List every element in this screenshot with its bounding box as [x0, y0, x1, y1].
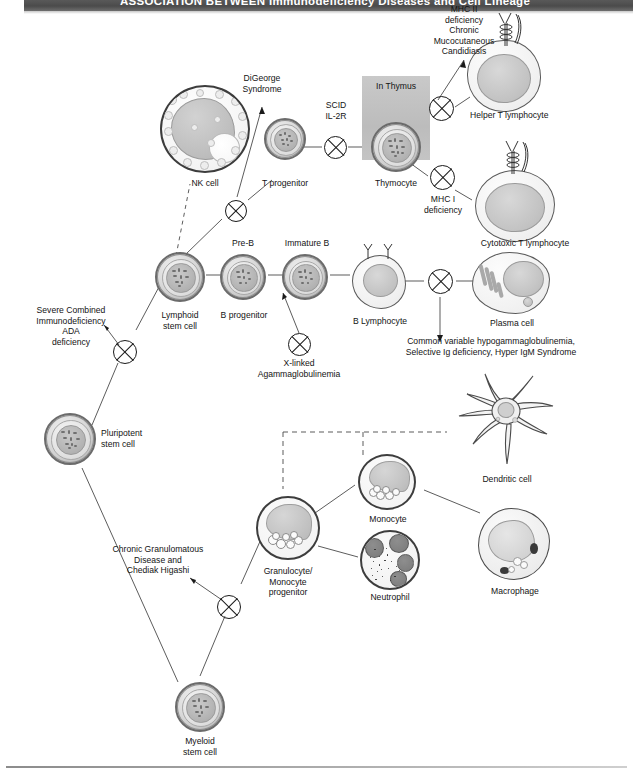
- block-scid-il2r-icon[interactable]: [324, 136, 347, 159]
- digeorge-syndrome-annotation: DiGeorge Syndrome: [215, 73, 309, 94]
- stage-label-in-thymus: In Thymus: [362, 81, 430, 92]
- granulocyte-monocyte-progenitor-graphic: [256, 496, 320, 560]
- pluripotent-stem-cell-graphic: [44, 413, 96, 465]
- common-variable-hypogammaglobulinemia-annotation: Common variable hypogammaglobulinemia, S…: [352, 336, 630, 357]
- thymocyte-label: Thymocyte: [356, 178, 436, 189]
- block-digeorge-icon[interactable]: [225, 200, 247, 222]
- block-cgd-icon[interactable]: [217, 595, 241, 619]
- helper-t-lymphocyte-label: Helper T lymphocyte: [470, 110, 590, 121]
- nk-cell-label: NK cell: [165, 178, 245, 189]
- granulocyte-monocyte-progenitor-label: Granulocyte/ Monocyte progenitor: [240, 566, 336, 598]
- immature-b-graphic: [282, 254, 328, 300]
- chronic-granulomatous-disease-chediak-higashi-annotation: Chronic Granulomatous Disease and Chedia…: [98, 544, 218, 576]
- b-lymphocyte-receptor-icon: [358, 243, 402, 261]
- b-progenitor-graphic: [220, 254, 266, 300]
- nk-nucleus: [171, 98, 235, 160]
- cytotoxic-t-lymphocyte-graphic: [475, 170, 555, 242]
- plasma-cell-graphic: [472, 252, 550, 314]
- stage-label-immature-b: Immature B: [272, 238, 342, 249]
- cytotoxic-t-lymphocyte-label: Cytotoxic T lymphocyte: [460, 238, 590, 249]
- pluripotent-stem-cell-label: Pluripotent stem cell: [101, 428, 181, 449]
- lymphoid-stem-cell-graphic: [155, 252, 205, 302]
- block-mhc-2-icon[interactable]: [429, 96, 454, 121]
- nk-cell-graphic: [160, 85, 250, 173]
- t-progenitor-label: T progenitor: [245, 178, 325, 189]
- t-progenitor-graphic: [264, 118, 306, 160]
- monocyte-label: Monocyte: [348, 514, 428, 525]
- mhc-1-deficiency-annotation: MHC I deficiency: [412, 194, 474, 215]
- x-linked-agammaglobulinemia-annotation: X-linked Agammaglobulinemia: [233, 358, 365, 379]
- monocyte-graphic: [358, 454, 416, 510]
- block-mhc-1-icon[interactable]: [430, 165, 455, 190]
- severe-combined-immunodeficiency-ada-annotation: Severe Combined Immunodeficiency ADA def…: [18, 305, 124, 347]
- myeloid-stem-cell-label: Myeloid stem cell: [158, 736, 242, 757]
- b-lymphocyte-label: B Lymphocyte: [340, 316, 420, 327]
- stage-label-pre-b: Pre-B: [213, 238, 273, 249]
- b-progenitor-label: B progenitor: [208, 310, 280, 321]
- plasma-cell-label: Plasma cell: [472, 318, 552, 329]
- myeloid-stem-cell-graphic: [175, 682, 225, 732]
- b-lymphocyte-graphic: [352, 255, 406, 309]
- mhc-2-deficiency-annotation: MHC II deficiency Chronic Mucocutaneous …: [410, 4, 518, 57]
- macrophage-graphic: [478, 508, 550, 580]
- neutrophil-graphic: [360, 530, 420, 590]
- neutrophil-label: Neutrophil: [350, 592, 430, 603]
- footer-divider: [6, 766, 627, 768]
- block-plasma-icon[interactable]: [428, 269, 453, 294]
- block-xla-icon[interactable]: [288, 333, 311, 356]
- dendritic-cell-label: Dendritic cell: [462, 474, 552, 485]
- dendritic-cell-graphic: [455, 372, 560, 472]
- scid-il2r-annotation: SCID IL-2R: [310, 100, 362, 121]
- macrophage-label: Macrophage: [470, 586, 560, 597]
- diagram-canvas: ASSOCIATION BETWEEN Immunodeficiency Dis…: [0, 0, 633, 781]
- cytotoxic-t-receptor-icon: [492, 140, 538, 180]
- thymocyte-graphic: [371, 122, 421, 172]
